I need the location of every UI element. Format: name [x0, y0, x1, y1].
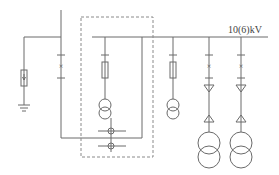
- breaker-x-icon: ×: [239, 62, 244, 69]
- power-transformer-icon: [230, 132, 252, 154]
- busbar-voltage-label: 10(6)kV: [228, 24, 263, 36]
- outgoing-feeder-1: ×: [198, 37, 220, 168]
- breaker-x-icon: ×: [207, 62, 212, 69]
- surge-arrester-branch: [18, 37, 61, 111]
- outgoing-feeder-2: ×: [230, 37, 252, 168]
- power-transformer-icon: [198, 132, 220, 154]
- breaker-x-icon: ×: [59, 62, 64, 69]
- single-line-diagram: 10(6)kV ×: [0, 0, 279, 175]
- pt-branch: [167, 37, 179, 119]
- incoming-feeder: ×: [57, 10, 142, 138]
- metering-cabinet: [98, 37, 142, 152]
